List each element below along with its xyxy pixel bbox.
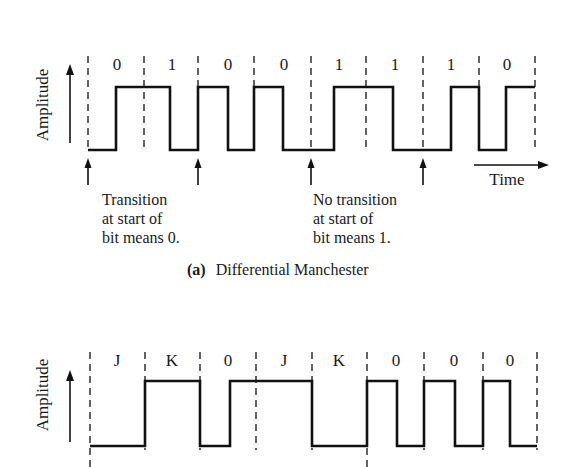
caption-text: Differential Manchester bbox=[216, 261, 370, 278]
bit-label: 1 bbox=[168, 55, 177, 74]
annotation-line: bit means 0. bbox=[102, 229, 180, 246]
jk-symbol-diagram: Amplitude J K 0 J K 0 0 0 bbox=[33, 351, 537, 467]
annotation-line: No transition bbox=[313, 191, 397, 208]
bottom-amplitude-arrow-icon bbox=[66, 370, 74, 442]
symbol-label: 0 bbox=[506, 351, 515, 370]
bit-label: 0 bbox=[280, 55, 289, 74]
bottom-symbol-labels: J K 0 J K 0 0 0 bbox=[114, 351, 515, 370]
bit-label: 1 bbox=[335, 55, 344, 74]
symbol-label: J bbox=[114, 351, 121, 370]
encoding-diagram: Amplitude 0 1 0 0 1 1 1 0 bbox=[0, 0, 572, 467]
annotation-line: at start of bbox=[313, 210, 374, 227]
bottom-waveform bbox=[90, 381, 537, 446]
up-arrow-icon bbox=[308, 158, 315, 185]
annotation-line: bit means 1. bbox=[313, 229, 391, 246]
bit-label: 1 bbox=[447, 55, 456, 74]
annotation-line: Transition bbox=[102, 191, 167, 208]
bottom-amplitude-label: Amplitude bbox=[33, 359, 52, 432]
top-bit-labels: 0 1 0 0 1 1 1 0 bbox=[113, 55, 512, 74]
symbol-label: 0 bbox=[450, 351, 459, 370]
symbol-label: K bbox=[166, 351, 179, 370]
differential-manchester-diagram: Amplitude 0 1 0 0 1 1 1 0 bbox=[33, 55, 549, 279]
bit-label: 1 bbox=[391, 55, 400, 74]
bottom-symbol-boundaries bbox=[90, 352, 537, 467]
up-arrow-icon bbox=[85, 158, 92, 185]
transition-arrows bbox=[85, 158, 427, 185]
time-label: Time bbox=[489, 170, 524, 189]
symbol-label: 0 bbox=[392, 351, 401, 370]
top-amplitude-label: Amplitude bbox=[33, 69, 52, 142]
symbol-label: J bbox=[281, 351, 288, 370]
symbol-label: K bbox=[333, 351, 346, 370]
top-amplitude-arrow-icon bbox=[66, 64, 74, 143]
annotation-transition: Transition at start of bit means 0. bbox=[102, 191, 180, 246]
up-arrow-icon bbox=[420, 158, 427, 185]
bit-label: 0 bbox=[113, 55, 122, 74]
time-arrow-icon bbox=[474, 161, 549, 169]
annotation-line: at start of bbox=[102, 210, 163, 227]
bit-label: 0 bbox=[503, 55, 512, 74]
bit-label: 0 bbox=[224, 55, 233, 74]
caption: (a) Differential Manchester bbox=[187, 261, 369, 279]
top-bit-boundaries bbox=[88, 56, 535, 152]
annotation-no-transition: No transition at start of bit means 1. bbox=[313, 191, 397, 246]
caption-letter: (a) bbox=[187, 261, 206, 279]
up-arrow-icon bbox=[195, 158, 202, 185]
symbol-label: 0 bbox=[224, 351, 233, 370]
